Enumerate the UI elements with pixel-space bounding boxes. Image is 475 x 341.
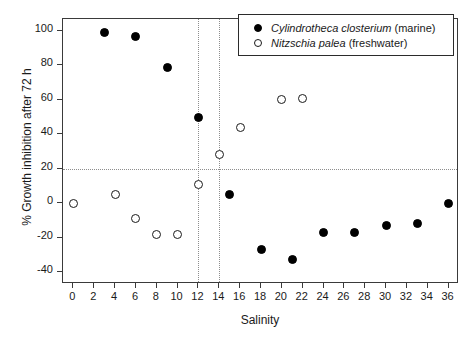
y-axis-title: % Growth inhibition after 72 h xyxy=(20,47,34,247)
x-tick-8 xyxy=(156,283,157,288)
data-point-series1 xyxy=(173,230,182,239)
x-tick-20 xyxy=(281,283,282,288)
legend-species-marine: Cylindrotheca closterium xyxy=(271,22,391,34)
y-tick-label--20: -20 xyxy=(8,229,53,241)
x-tick-0 xyxy=(72,283,73,288)
y-tick-label-40: 40 xyxy=(8,125,53,137)
x-tick-28 xyxy=(364,283,365,288)
data-point-series0 xyxy=(257,245,266,254)
data-point-series0 xyxy=(382,221,391,230)
x-tick-6 xyxy=(135,283,136,288)
data-point-series1 xyxy=(298,94,307,103)
legend-label-marine: Cylindrotheca closterium (marine) xyxy=(271,22,435,34)
data-point-series1 xyxy=(236,123,245,132)
x-tick-36 xyxy=(448,283,449,288)
y-tick-label--40: -40 xyxy=(8,263,53,275)
filled-circle-icon xyxy=(245,24,271,32)
x-tick-16 xyxy=(239,283,240,288)
data-point-series0 xyxy=(163,63,172,72)
data-point-series0 xyxy=(131,32,140,41)
data-point-series0 xyxy=(194,113,203,122)
legend-habitat-marine: (marine) xyxy=(391,22,435,34)
y-tick-label-80: 80 xyxy=(8,56,53,68)
legend-species-freshwater: Nitzschia palea xyxy=(271,37,346,49)
x-tick-4 xyxy=(114,283,115,288)
legend-habitat-freshwater: (freshwater) xyxy=(346,37,408,49)
x-tick-18 xyxy=(260,283,261,288)
legend-entry-freshwater: Nitzschia palea (freshwater) xyxy=(245,35,447,50)
data-point-series1 xyxy=(277,95,286,104)
x-axis-title: Salinity xyxy=(62,313,458,327)
x-tick-24 xyxy=(323,283,324,288)
y-tick-label-0: 0 xyxy=(8,194,53,206)
data-point-series0 xyxy=(413,219,422,228)
data-point-series1 xyxy=(152,230,161,239)
data-point-series1 xyxy=(111,190,120,199)
x-tick-30 xyxy=(385,283,386,288)
data-point-series0 xyxy=(350,228,359,237)
x-tick-26 xyxy=(343,283,344,288)
data-point-series0 xyxy=(319,228,328,237)
data-point-series0 xyxy=(444,199,453,208)
data-point-series1 xyxy=(69,199,78,208)
y-tick-label-60: 60 xyxy=(8,91,53,103)
data-point-series1 xyxy=(131,214,140,223)
x-tick-10 xyxy=(177,283,178,288)
x-tick-32 xyxy=(406,283,407,288)
x-tick-34 xyxy=(427,283,428,288)
data-point-series0 xyxy=(288,255,297,264)
x-tick-14 xyxy=(218,283,219,288)
data-point-series0 xyxy=(100,28,109,37)
data-point-series1 xyxy=(215,150,224,159)
x-tick-label-36: 36 xyxy=(433,290,463,302)
chart-legend: Cylindrotheca closterium (marine) Nitzsc… xyxy=(238,14,454,56)
open-circle-icon xyxy=(245,39,271,47)
x-tick-12 xyxy=(197,283,198,288)
reference-line-horizontal-20 xyxy=(63,169,457,170)
legend-label-freshwater: Nitzschia palea (freshwater) xyxy=(271,37,407,49)
reference-line-vertical-12 xyxy=(198,19,199,282)
scatter-chart-figure: % Growth inhibition after 72 h -40-20020… xyxy=(0,0,475,341)
data-point-series1 xyxy=(194,180,203,189)
x-tick-2 xyxy=(93,283,94,288)
y-tick-label-100: 100 xyxy=(8,22,53,34)
y-tick-label-20: 20 xyxy=(8,160,53,172)
x-tick-22 xyxy=(302,283,303,288)
data-point-series0 xyxy=(225,190,234,199)
plot-area xyxy=(62,18,458,283)
legend-entry-marine: Cylindrotheca closterium (marine) xyxy=(245,20,447,35)
